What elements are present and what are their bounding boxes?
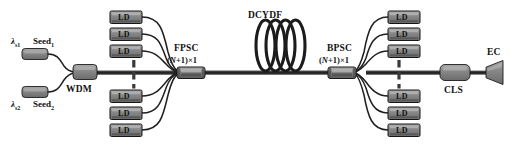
seed-2-label: Seed2 — [33, 100, 54, 111]
ld-box-label: LD — [396, 14, 408, 22]
fpsc-ld-ellipsis-dashes — [132, 60, 135, 89]
cls-label: CLS — [444, 86, 463, 96]
ld-box-label: LD — [118, 127, 130, 135]
ld-box-label: LD — [396, 127, 408, 135]
ld-box-label: LD — [396, 48, 408, 56]
ld-box-label: LD — [118, 110, 130, 118]
seed-2-box[interactable] — [22, 87, 48, 98]
wdm-body[interactable] — [73, 65, 97, 80]
seed-1-box[interactable] — [22, 49, 48, 60]
cls-body[interactable] — [440, 65, 470, 81]
ec-body[interactable] — [486, 61, 503, 85]
seed-1-label: Seed1 — [33, 37, 54, 48]
ld-box-label: LD — [396, 93, 408, 101]
ld-box-label: LD — [396, 31, 408, 39]
ld-box-label: LD — [118, 48, 130, 56]
bpsc-combiner-body[interactable] — [328, 67, 356, 79]
dcydf-coil — [256, 20, 305, 71]
ld-box-label: LD — [118, 31, 130, 39]
seed-2-wavelength-label: λs2 — [11, 100, 20, 111]
figure-canvas: LD LD LD LD LD LD LD LD LD LD LD LD λs1 … — [0, 0, 517, 145]
dcydf-label: DCYDF — [248, 11, 282, 21]
schematic-artwork — [0, 0, 517, 145]
fpsc-ratio-label: (N+1)×1 — [167, 56, 197, 65]
wdm-label: WDM — [66, 85, 92, 95]
ec-label: EC — [487, 48, 501, 58]
fpsc-label: FPSC — [174, 44, 199, 54]
bpsc-ld-ellipsis-dashes — [397, 60, 400, 89]
seed-1-wavelength-label: λs1 — [11, 37, 20, 48]
fpsc-combiner-body[interactable] — [177, 67, 205, 79]
bpsc-ratio-label: (N+1)×1 — [319, 56, 349, 65]
bpsc-label: BPSC — [327, 44, 352, 54]
ld-box-label: LD — [396, 110, 408, 118]
ld-box-label: LD — [118, 14, 130, 22]
ld-box-label: LD — [118, 93, 130, 101]
